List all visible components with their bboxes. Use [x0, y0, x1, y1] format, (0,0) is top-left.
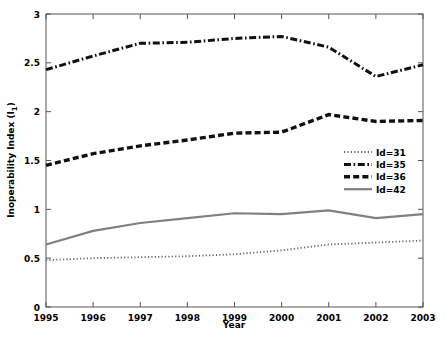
x-tick-label: 1995	[33, 313, 58, 323]
x-axis-title: Year	[222, 320, 246, 330]
y-tick-label: 2.5	[24, 58, 40, 68]
legend-label-id-31: Id=31	[376, 148, 406, 158]
x-tick-label: 1996	[81, 313, 106, 323]
series-line-id-31	[46, 241, 423, 261]
svg-text:Inoperability Index (I1): Inoperability Index (I1)	[6, 102, 19, 218]
x-tick-label: 1998	[175, 313, 200, 323]
series-line-id-42	[46, 210, 423, 244]
x-tick-label: 2002	[363, 313, 388, 323]
legend-label-id-36: Id=36	[376, 172, 406, 182]
y-tick-label: 3	[34, 10, 40, 20]
y-tick-label: 0.5	[24, 254, 40, 264]
x-tick-label: 2001	[316, 313, 341, 323]
x-tick-label: 2003	[410, 313, 435, 323]
plot-frame	[46, 14, 423, 307]
y-tick-label: 0	[34, 303, 40, 313]
line-chart: 00.511.522.53 19951996199719981999200020…	[0, 0, 448, 337]
data-series-group	[46, 36, 423, 260]
series-line-id-36	[46, 115, 423, 166]
series-line-id-35	[46, 36, 423, 76]
y-tick-label: 1.5	[24, 156, 40, 166]
chart-legend: Id=31Id=35Id=36Id=42	[344, 148, 406, 195]
chart-figure: 00.511.522.53 19951996199719981999200020…	[0, 0, 448, 337]
legend-label-id-35: Id=35	[376, 160, 406, 170]
x-tick-label: 2000	[269, 313, 294, 323]
y-tick-label: 1	[34, 205, 40, 215]
x-tick-label: 1997	[128, 313, 153, 323]
y-axis-title-tail: )	[6, 102, 16, 106]
y-axis-title-base: Inoperability Index (I	[6, 111, 16, 218]
y-tick-label: 2	[34, 107, 40, 117]
y-axis-title: Inoperability Index (I1)	[6, 102, 19, 218]
y-axis-ticks: 00.511.522.53	[24, 10, 423, 313]
legend-label-id-42: Id=42	[376, 185, 406, 195]
